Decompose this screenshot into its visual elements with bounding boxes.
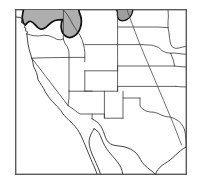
range-map-canvas [0, 0, 199, 194]
map-frame [16, 10, 187, 175]
range-map-figure [0, 0, 199, 194]
